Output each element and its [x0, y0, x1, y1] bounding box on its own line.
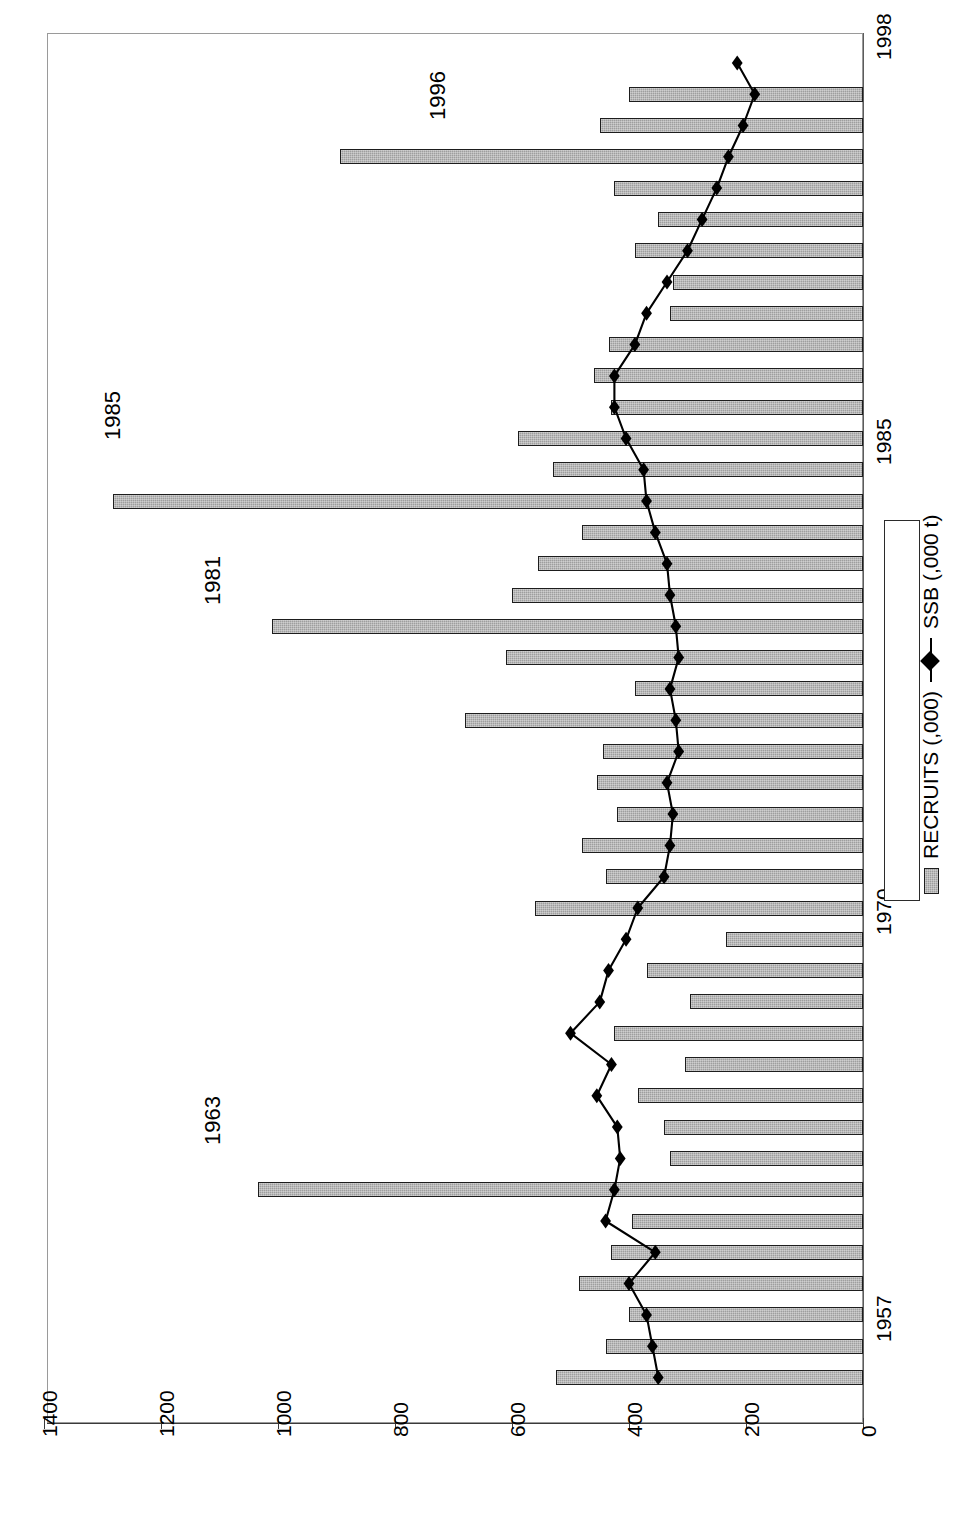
bar-1981	[272, 619, 863, 634]
bar-1980	[506, 650, 863, 665]
bar-1969	[690, 994, 863, 1009]
annotation-1996: 1996	[425, 71, 451, 120]
year-label-1985: 1985	[872, 418, 896, 465]
annotation-1985: 1985	[100, 391, 126, 440]
value-tick-label-600: 600	[506, 1347, 530, 1437]
bar-1995	[614, 181, 863, 196]
bar-1991	[670, 306, 863, 321]
bar-1971	[726, 932, 863, 947]
bar-1977	[603, 744, 863, 759]
bar-1987	[518, 431, 863, 446]
legend-label-recruits: RECRUITS (,000)	[919, 691, 943, 859]
bar-1984	[582, 525, 863, 540]
bar-1962	[632, 1214, 863, 1229]
bar-1964	[670, 1151, 863, 1166]
bar-1960	[579, 1276, 863, 1291]
bar-1996	[340, 149, 863, 164]
bar-1959	[629, 1307, 863, 1322]
bar-1967	[685, 1057, 863, 1072]
value-tick-label-800: 800	[389, 1347, 413, 1437]
legend-marker-ssb-icon	[923, 638, 939, 682]
bar-1963	[258, 1182, 863, 1197]
bar-1997	[600, 118, 863, 133]
value-tick-label-400: 400	[623, 1347, 647, 1437]
bar-1957	[556, 1370, 863, 1385]
year-label-1957: 1957	[872, 1295, 896, 1342]
bar-1983	[538, 556, 863, 571]
bar-1973	[606, 869, 863, 884]
chart-legend: RECRUITS (,000) SSB (,000 t)	[884, 520, 920, 901]
bar-1972	[535, 901, 863, 916]
value-tick-label-1200: 1200	[155, 1347, 179, 1437]
bar-1988	[611, 400, 863, 415]
legend-label-ssb: SSB (,000 t)	[919, 515, 943, 629]
bar-1990	[609, 337, 863, 352]
bar-1992	[673, 275, 863, 290]
bar-1966	[638, 1088, 863, 1103]
chart-page: 1400 1200 1000 800 600 400 200 0 1957 19…	[0, 0, 966, 1536]
bar-1979	[635, 681, 863, 696]
bar-1978	[465, 713, 863, 728]
bar-1998	[629, 87, 863, 102]
value-tick-label-1000: 1000	[272, 1347, 296, 1437]
bar-1968	[614, 1026, 863, 1041]
value-tick-label-0: 0	[857, 1347, 881, 1437]
value-tick-label-200: 200	[740, 1347, 764, 1437]
category-axis-line	[863, 33, 864, 1424]
year-label-1998: 1998	[872, 13, 896, 60]
annotation-1981: 1981	[200, 556, 226, 605]
legend-swatch-recruits	[924, 868, 939, 894]
bar-1989	[594, 368, 863, 383]
annotation-1963: 1963	[200, 1096, 226, 1145]
bar-1994	[658, 212, 863, 227]
bar-1974	[582, 838, 863, 853]
bar-1976	[597, 775, 863, 790]
bar-1970	[647, 963, 863, 978]
bar-1985	[113, 494, 863, 509]
bar-1982	[512, 588, 863, 603]
bar-1986	[553, 462, 863, 477]
bar-1965	[664, 1120, 863, 1135]
bar-1975	[617, 807, 863, 822]
bar-1961	[611, 1245, 863, 1260]
bar-1993	[635, 243, 863, 258]
value-tick-label-1400: 1400	[38, 1347, 62, 1437]
